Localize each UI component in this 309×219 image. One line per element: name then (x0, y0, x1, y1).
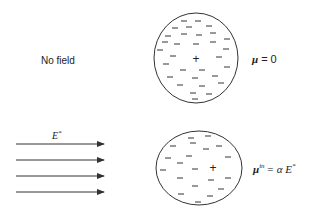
no-field-label: No field (41, 55, 75, 66)
dipole-zero-equation: μ= 0 (251, 53, 277, 65)
nucleus-charge: + (209, 161, 216, 175)
electron-cloud (160, 136, 231, 202)
polarized-atom: + (156, 131, 242, 205)
field-label: E* (51, 129, 62, 141)
polarization-diagram: No field (0, 0, 309, 219)
atom-boundary (156, 131, 242, 205)
unpolarized-atom: + (154, 13, 238, 103)
induced-dipole-equation: μin= α E* (252, 162, 296, 175)
nucleus-charge: + (192, 52, 199, 66)
electric-field-arrows (16, 144, 104, 192)
